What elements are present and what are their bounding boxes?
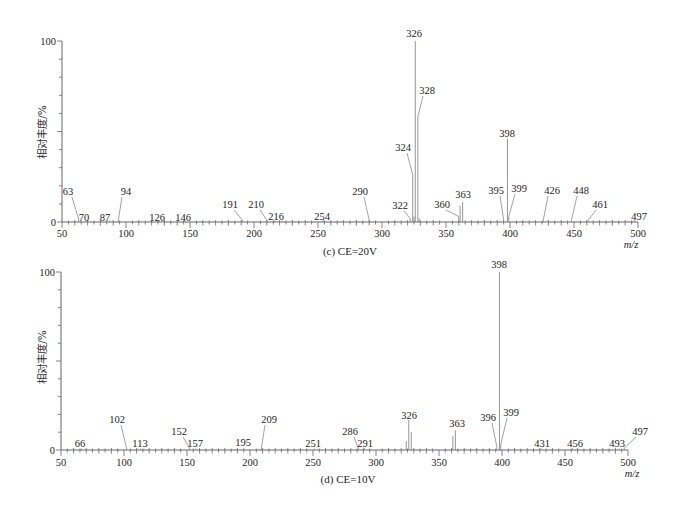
peak-label-63: 63 [63, 186, 74, 197]
x-tick-label: 450 [557, 457, 573, 468]
peak-label-396: 396 [480, 412, 496, 423]
leader-line [501, 418, 507, 445]
leader-line [624, 437, 636, 448]
peak-label-328: 328 [419, 85, 435, 96]
x-tick-label: 350 [431, 457, 447, 468]
x-tick-label: 500 [630, 228, 646, 239]
leader-line [261, 425, 265, 448]
x-tick-label: 250 [310, 228, 326, 239]
panel-caption: (d) CE=10V [321, 473, 376, 486]
peak-label-363: 363 [455, 189, 471, 200]
peak-label-399: 399 [503, 407, 519, 418]
peak-label-87: 87 [100, 212, 111, 223]
plot-area: 0100501001502002503003504004505006370879… [40, 28, 647, 240]
plot-area: 0100501001502002503003504004505006610211… [39, 259, 648, 469]
leader-line [588, 210, 596, 220]
leader-line [509, 194, 515, 217]
peak-label-363: 363 [449, 418, 465, 429]
leader-line [364, 197, 369, 220]
y-tick-label: 0 [50, 445, 55, 456]
x-tick-label: 200 [242, 457, 258, 468]
peak-label-254: 254 [314, 211, 331, 222]
peak-label-290: 290 [352, 186, 368, 197]
leader-line [492, 423, 497, 447]
peak-label-126: 126 [149, 212, 165, 223]
y-tick-label: 0 [51, 217, 56, 228]
x-tick-label: 50 [56, 457, 67, 468]
peak-label-210: 210 [248, 199, 264, 210]
peak-label-191: 191 [222, 199, 238, 210]
leader-line [418, 96, 423, 117]
peak-label-326: 326 [406, 28, 422, 39]
peak-label-456: 456 [567, 438, 583, 449]
x-axis-label: m/z [624, 239, 639, 250]
x-tick-label: 100 [116, 457, 132, 468]
y-axis-label: 相对丰度/% [36, 105, 48, 159]
peak-label-152: 152 [171, 426, 187, 437]
leader-line [121, 425, 127, 448]
x-tick-label: 350 [438, 228, 454, 239]
x-tick-label: 450 [566, 228, 582, 239]
leader-line [260, 210, 267, 220]
peak-label-324: 324 [395, 142, 412, 153]
spectrum-panel-d: (d) CE=10V 相对丰度/% m/z 010050100150200250… [36, 259, 648, 487]
peak-label-461: 461 [592, 199, 608, 210]
peak-label-216: 216 [268, 211, 284, 222]
peak-label-70: 70 [79, 212, 90, 223]
mass-spectra-figure: (c) CE=20V 相对丰度/% m/z 010050100150200250… [0, 0, 682, 509]
x-tick-label: 300 [374, 228, 390, 239]
x-axis-label: m/z [625, 468, 640, 479]
peak-label-291: 291 [357, 438, 373, 449]
leader-line [234, 210, 242, 220]
x-tick-label: 100 [118, 228, 134, 239]
peak-label-251: 251 [305, 438, 321, 449]
leader-line [404, 211, 410, 218]
peak-label-209: 209 [261, 414, 277, 425]
peak-label-398: 398 [491, 259, 507, 270]
peak-label-426: 426 [544, 185, 560, 196]
panel-caption: (c) CE=20V [323, 245, 377, 258]
x-tick-label: 150 [182, 228, 198, 239]
peak-label-448: 448 [573, 185, 589, 196]
x-tick-label: 400 [502, 228, 518, 239]
peak-label-431: 431 [534, 438, 550, 449]
x-tick-label: 500 [620, 457, 636, 468]
peak-label-113: 113 [132, 438, 147, 449]
leader-line [446, 210, 459, 217]
peak-label-102: 102 [109, 414, 125, 425]
spectrum-panel-c: (c) CE=20V 相对丰度/% m/z 010050100150200250… [36, 28, 647, 259]
peak-label-322: 322 [392, 200, 408, 211]
leader-line [543, 196, 548, 220]
x-tick-label: 50 [57, 228, 68, 239]
peak-label-326: 326 [401, 410, 417, 421]
x-tick-label: 400 [494, 457, 510, 468]
peak-label-286: 286 [342, 426, 358, 437]
peak-label-66: 66 [75, 438, 86, 449]
peak-label-398: 398 [499, 128, 515, 139]
peak-label-157: 157 [187, 438, 203, 449]
peak-label-360: 360 [434, 199, 450, 210]
peak-label-493: 493 [609, 438, 625, 449]
peak-label-395: 395 [488, 185, 504, 196]
x-tick-label: 250 [305, 457, 321, 468]
peak-label-497: 497 [632, 426, 648, 437]
y-axis-label: 相对丰度/% [36, 330, 48, 384]
leader-line [500, 196, 504, 219]
leader-line [407, 153, 413, 175]
peak-label-399: 399 [511, 183, 527, 194]
leader-line [571, 196, 577, 220]
x-tick-label: 300 [368, 457, 384, 468]
peak-label-195: 195 [235, 437, 251, 448]
x-tick-label: 200 [246, 228, 262, 239]
leader-line [118, 197, 122, 220]
leader-line [72, 197, 79, 219]
peak-label-497: 497 [631, 211, 647, 222]
y-tick-label: 100 [39, 267, 55, 278]
peak-label-94: 94 [121, 186, 132, 197]
y-tick-label: 100 [40, 36, 56, 47]
peak-label-146: 146 [175, 212, 191, 223]
x-tick-label: 150 [179, 457, 195, 468]
